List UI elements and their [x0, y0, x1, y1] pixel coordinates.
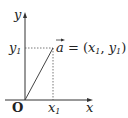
origin-label: O: [12, 100, 23, 115]
x-axis-label: x: [86, 100, 94, 115]
y-axis-label: y: [13, 7, 22, 22]
vector-diagram: y x O y1 x1 a = (x1, y1): [0, 0, 128, 118]
vector-a: [25, 48, 53, 100]
y1-label: y1: [8, 40, 21, 56]
x1-label: x1: [48, 100, 60, 116]
y-axis-arrow-icon: [23, 12, 27, 18]
vector-equation: a = (x1, y1): [56, 40, 126, 56]
